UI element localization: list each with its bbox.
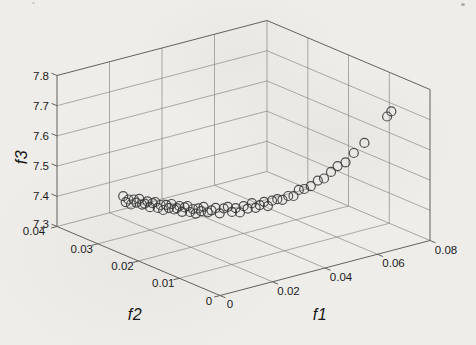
y-axis-label: f2 [120,306,150,324]
y-tick-label: 0.01 [152,277,174,289]
scan-speckle [461,3,465,6]
z-tick-label: 7.7 [33,100,49,112]
data-point [320,174,329,183]
scanned-figure-page: 7.37.47.57.67.77.800.020.040.060.0800.01… [0,0,476,345]
z-tick-label: 7.5 [33,160,49,172]
x-tick-label: 0.04 [330,271,353,283]
data-point [313,176,322,185]
x-tick-label: 0.08 [435,244,457,256]
z-tick-label: 7.4 [33,190,50,202]
data-point [360,138,369,147]
z-tick-label: 7.6 [33,130,49,142]
z-tick-label: 7.8 [33,70,49,82]
z-axis-label: f3 [13,143,31,171]
x-tick-label: 0.02 [277,285,299,297]
data-points [119,107,396,218]
x-tick-label: 0 [227,298,233,310]
scan-speckle [32,2,35,4]
data-point [349,149,358,158]
scatter3d-plot-canvas: 7.37.47.57.67.77.800.020.040.060.0800.01… [0,0,476,345]
x-axis-label: f1 [305,306,335,324]
y-tick-label: 0.03 [71,243,93,255]
x-tick-label: 0.06 [382,257,404,269]
y-tick-label: 0.04 [23,225,46,237]
tick-marks [51,73,435,298]
y-tick-label: 0 [206,295,212,307]
grid-lines [57,34,430,281]
y-tick-label: 0.02 [111,260,133,272]
tick-labels: 7.37.47.57.67.77.800.020.040.060.0800.01… [23,70,457,310]
box-edges [57,21,430,296]
